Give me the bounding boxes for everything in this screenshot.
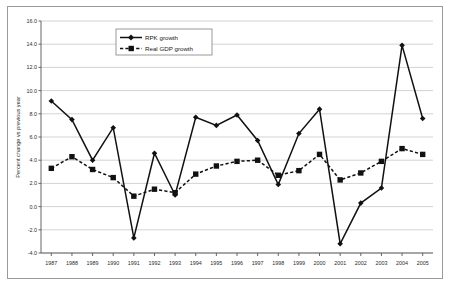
x-tick-label: 2002 (355, 260, 367, 266)
x-tick-label: 1990 (107, 260, 119, 266)
data-point-marker (317, 152, 322, 157)
data-point-marker (111, 175, 116, 180)
data-point-marker (131, 193, 136, 198)
data-point-marker (420, 152, 425, 157)
x-tick-label: 1995 (210, 260, 222, 266)
data-point-marker (49, 166, 54, 171)
data-point-marker (337, 177, 342, 182)
y-tick-label: -4.0 (28, 250, 37, 256)
x-axis-tick-labels: 1987198819891990199119921993199419951996… (45, 253, 428, 266)
x-tick-label: 1997 (252, 260, 264, 266)
data-point-marker (69, 154, 74, 159)
chart-frame: -4.0-2.00.02.04.06.08.010.012.014.016.0 … (7, 6, 443, 279)
legend-label-rpk: RPK growth (145, 34, 179, 41)
x-tick-label: 1992 (148, 260, 160, 266)
x-tick-label: 1991 (128, 260, 140, 266)
y-tick-label: 8.0 (30, 111, 38, 117)
legend-label-gdp: Real GDP growth (145, 45, 194, 52)
data-point-marker (234, 159, 239, 164)
x-tick-label: 1988 (66, 260, 78, 266)
data-point-marker (358, 170, 363, 175)
y-tick-label: 14.0 (27, 41, 38, 47)
data-point-marker (255, 158, 260, 163)
growth-line-chart: -4.0-2.00.02.04.06.08.010.012.014.016.0 … (8, 7, 442, 278)
y-tick-label: 10.0 (27, 88, 38, 94)
x-tick-label: 2005 (417, 260, 429, 266)
data-point-marker (399, 146, 404, 151)
y-tick-label: 6.0 (30, 134, 38, 140)
y-tick-label: 12.0 (27, 64, 38, 70)
x-tick-label: 1989 (87, 260, 99, 266)
x-tick-label: 1996 (231, 260, 243, 266)
legend-marker-gdp (129, 46, 134, 51)
x-tick-label: 2001 (334, 260, 346, 266)
x-tick-label: 2004 (396, 260, 408, 266)
x-tick-label: 1999 (293, 260, 305, 266)
y-axis-tick-labels: -4.0-2.00.02.04.06.08.010.012.014.016.0 (27, 18, 38, 256)
y-tick-label: 4.0 (30, 157, 38, 163)
y-axis-title: Percent change vs previous year (15, 96, 21, 178)
x-tick-label: 2000 (314, 260, 326, 266)
chart-legend: RPK growth Real GDP growth (116, 29, 212, 55)
data-point-marker (152, 187, 157, 192)
x-tick-label: 2003 (375, 260, 387, 266)
data-point-marker (193, 171, 198, 176)
x-tick-label: 1987 (45, 260, 57, 266)
data-point-marker (296, 168, 301, 173)
x-tick-label: 1998 (272, 260, 284, 266)
data-point-marker (379, 159, 384, 164)
data-point-marker (276, 173, 281, 178)
y-tick-label: 2.0 (30, 180, 38, 186)
y-tick-label: 16.0 (27, 18, 38, 24)
y-tick-label: 0.0 (30, 204, 38, 210)
x-tick-label: 1993 (169, 260, 181, 266)
y-tick-label: -2.0 (28, 227, 37, 233)
x-tick-label: 1994 (190, 260, 202, 266)
data-point-marker (214, 163, 219, 168)
data-point-marker (90, 167, 95, 172)
